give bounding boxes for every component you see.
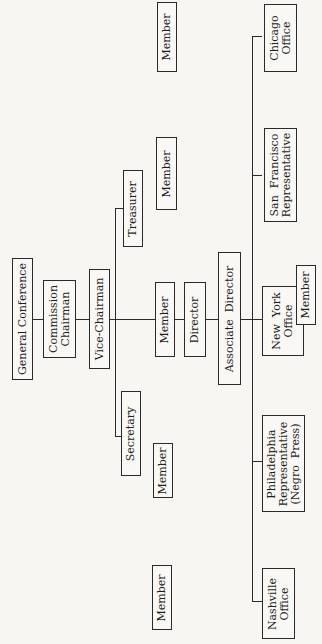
connector-associate-trunk — [241, 319, 252, 320]
member-near-secretary-label: Member — [157, 447, 169, 494]
connector-trunk-member-chain — [115, 319, 155, 320]
member-right-box: Member — [296, 265, 316, 325]
director-box: Director — [184, 282, 206, 357]
vice-chairman-trunk — [115, 208, 116, 436]
nashville-office-box: Nashville Office — [262, 568, 295, 639]
treasurer-box: Treasurer — [123, 170, 143, 247]
commission-chairman-label: Commission Chairman — [48, 285, 72, 353]
san-francisco-rep-box: San Francisco Representative — [264, 128, 297, 222]
member-near-treasurer-box: Member — [156, 137, 177, 210]
connector-trunk-treasurer — [115, 208, 123, 209]
san-francisco-rep-label: San Francisco Representative — [269, 133, 293, 217]
member-far-left-label: Member — [156, 574, 168, 621]
member-chain-box: Member — [155, 282, 175, 357]
general-conference-box: General Conference — [12, 258, 33, 380]
vice-chairman-box: Vice-Chairman — [89, 269, 110, 369]
connector-san-francisco — [252, 175, 262, 176]
connector-gc-cc — [33, 319, 43, 320]
connector-philadelphia — [252, 461, 262, 462]
connector-director-associate — [206, 319, 218, 320]
connector-member-director — [175, 319, 184, 320]
general-conference-label: General Conference — [17, 263, 29, 375]
director-label: Director — [189, 296, 201, 343]
treasurer-label: Treasurer — [127, 181, 139, 236]
nashville-office-label: Nashville Office — [267, 577, 291, 629]
connector-nashville — [252, 601, 262, 602]
associate-director-label: Associate Director — [224, 265, 236, 372]
vice-chairman-label: Vice-Chairman — [94, 278, 106, 361]
chicago-office-label: Chicago Office — [269, 15, 293, 60]
connector-cc-vc — [76, 319, 89, 320]
secretary-label: Secretary — [125, 406, 137, 460]
member-chain-label: Member — [159, 296, 171, 343]
commission-chairman-box: Commission Chairman — [43, 280, 76, 358]
member-near-secretary-box: Member — [153, 443, 173, 498]
philadelphia-rep-label: Philadelphia Representative (Negro Press… — [266, 421, 302, 505]
philadelphia-rep-box: Philadelphia Representative (Negro Press… — [262, 415, 305, 512]
member-top-box: Member — [157, 2, 177, 72]
member-right-label: Member — [300, 271, 312, 318]
member-top-label: Member — [161, 13, 173, 60]
connector-chicago — [252, 36, 262, 37]
secretary-box: Secretary — [121, 391, 141, 476]
connector-new-york — [252, 319, 262, 320]
member-near-treasurer-label: Member — [161, 150, 173, 197]
new-york-office-label: New York Office — [271, 292, 295, 349]
member-far-left-box: Member — [152, 565, 172, 630]
associate-director-box: Associate Director — [218, 252, 241, 385]
chicago-office-box: Chicago Office — [264, 4, 297, 72]
